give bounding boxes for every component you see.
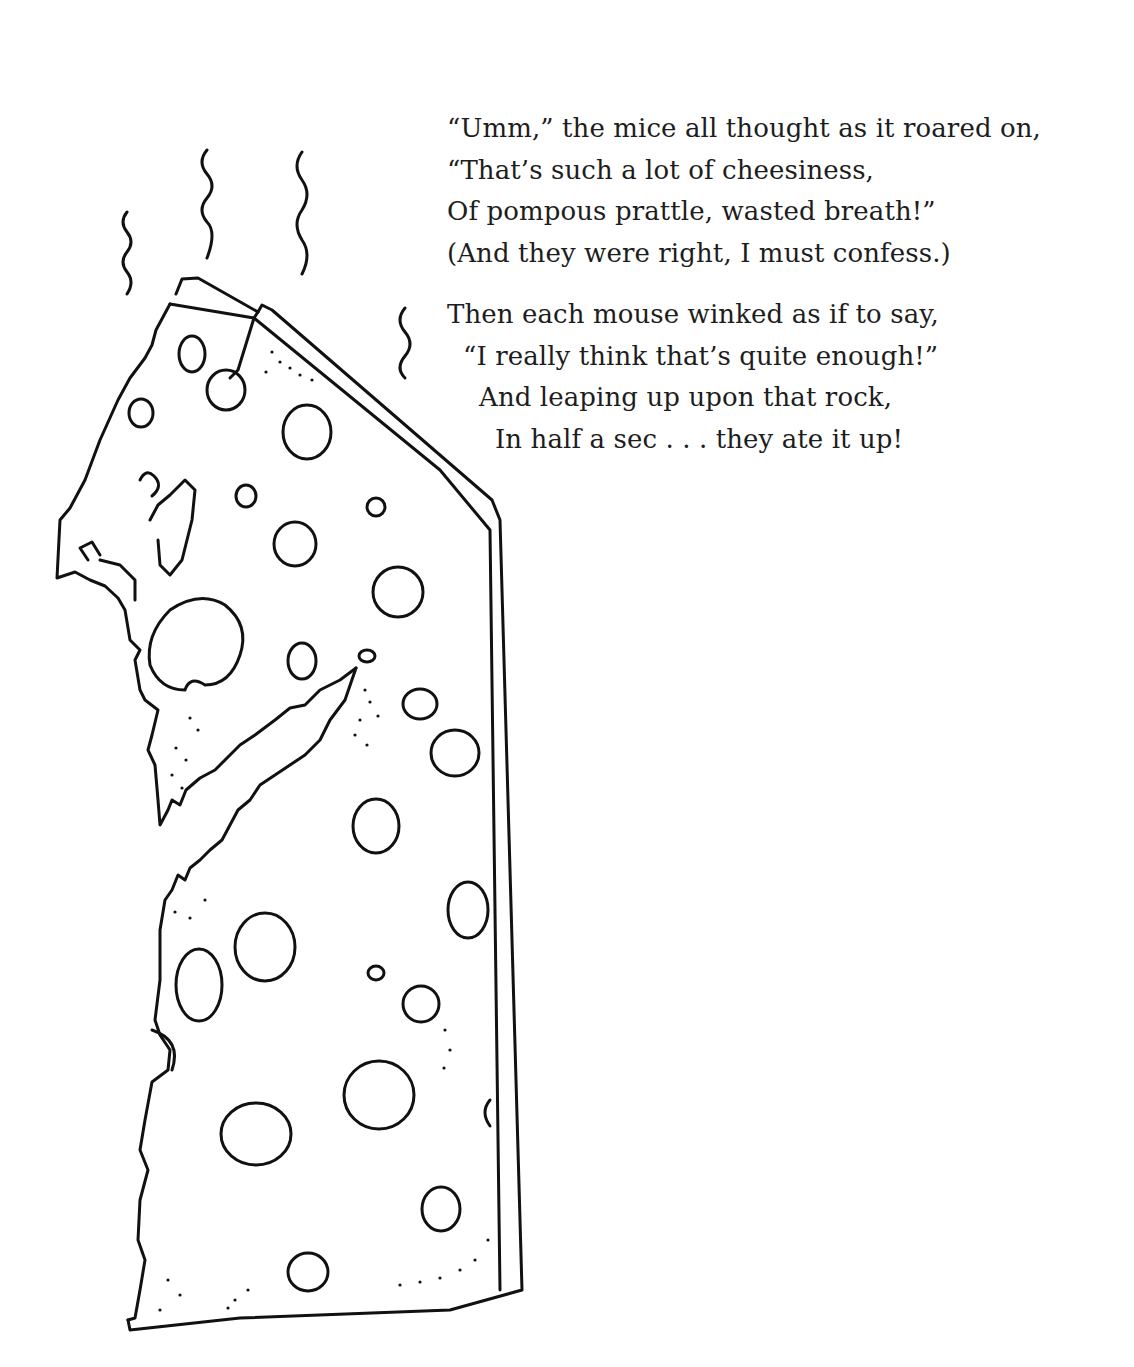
poem-stanza: Then each mouse winked as if to say, “I …: [447, 294, 1041, 460]
poem-line: In half a sec . . . they ate it up!: [447, 419, 1041, 461]
stink-lines-icon: [123, 150, 410, 378]
poem-stanza: “Umm,” the mice all thought as it roared…: [447, 108, 1041, 274]
poem-line: Of pompous prattle, wasted breath!”: [447, 191, 1041, 233]
poem-line: “I really think that’s quite enough!”: [447, 336, 1041, 378]
poem-line: “Umm,” the mice all thought as it roared…: [447, 108, 1041, 150]
poem-line: “That’s such a lot of cheesiness,: [447, 150, 1041, 192]
poem: “Umm,” the mice all thought as it roared…: [447, 108, 1041, 480]
poem-line: And leaping up upon that rock,: [447, 377, 1041, 419]
poem-line: (And they were right, I must confess.): [447, 233, 1041, 275]
cheese-holes-icon: [129, 336, 490, 1291]
cheese-texture-dots-icon: [158, 350, 489, 1311]
poem-line: Then each mouse winked as if to say,: [447, 294, 1041, 336]
